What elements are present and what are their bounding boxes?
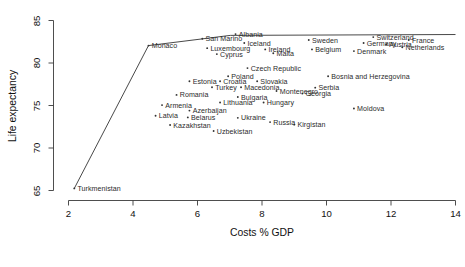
data-point-marker — [353, 108, 355, 110]
data-point-marker — [237, 96, 239, 98]
data-point-marker — [314, 87, 316, 89]
x-tick-label: 14 — [450, 208, 461, 219]
y-tick-label: 80 — [30, 58, 41, 69]
data-point-marker — [176, 94, 178, 96]
x-tick-label: 10 — [321, 208, 332, 219]
data-point-marker — [308, 39, 310, 41]
x-tick-label: 6 — [195, 208, 200, 219]
data-point-marker — [237, 117, 239, 119]
data-point-marker — [73, 187, 75, 189]
data-point-marker — [385, 43, 387, 45]
data-point-marker — [263, 102, 265, 104]
data-point-marker — [276, 90, 278, 92]
data-point-marker — [211, 86, 213, 88]
data-point-marker — [311, 48, 313, 50]
data-point-marker — [161, 104, 163, 106]
y-axis-title: Life expectancy — [6, 69, 17, 141]
data-point-marker — [187, 116, 189, 118]
data-point-marker — [269, 121, 271, 123]
data-point-marker — [188, 110, 190, 112]
y-tick-label: 75 — [30, 100, 41, 111]
data-point-marker — [206, 47, 208, 49]
efficiency-frontier-line — [74, 35, 455, 189]
data-point-marker — [408, 39, 410, 41]
data-point-marker — [363, 42, 365, 44]
data-point-marker — [240, 86, 242, 88]
data-point-marker — [293, 124, 295, 126]
data-point-marker — [401, 46, 403, 48]
data-point-marker — [243, 42, 245, 44]
data-point-marker — [327, 75, 329, 77]
x-tick-label: 12 — [386, 208, 397, 219]
data-point-marker — [264, 48, 266, 50]
scatter-plot-figure: TurkmenistanMonacoSan MarinoAlbaniaLuxem… — [0, 0, 465, 267]
data-point-marker — [219, 80, 221, 82]
data-point-marker — [247, 67, 249, 69]
data-point-marker — [219, 102, 221, 104]
data-point-marker — [256, 80, 258, 82]
data-point-marker — [213, 130, 215, 132]
data-point-marker — [235, 33, 237, 35]
y-tick-label: 85 — [30, 15, 41, 26]
x-tick-label: 2 — [66, 208, 71, 219]
data-point-marker — [148, 45, 150, 47]
data-point-marker — [155, 115, 157, 117]
x-axis-title: Costs % GDP — [230, 227, 294, 238]
data-point-marker — [188, 80, 190, 82]
y-tick-label: 70 — [30, 143, 41, 154]
x-tick-label: 4 — [130, 208, 135, 219]
data-point-marker — [353, 50, 355, 52]
data-point-marker — [227, 75, 229, 77]
data-point-marker — [372, 36, 374, 38]
data-point-marker — [272, 52, 274, 54]
x-tick-label: 8 — [259, 208, 264, 219]
data-point-marker — [216, 53, 218, 55]
data-point-marker — [169, 124, 171, 126]
data-point-marker — [301, 93, 303, 95]
y-tick-label: 65 — [30, 185, 41, 196]
data-point-marker — [201, 38, 203, 40]
